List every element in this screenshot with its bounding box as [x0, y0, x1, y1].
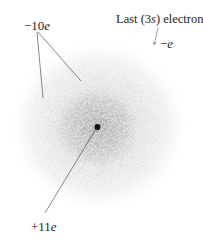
last-electron-pointer [155, 28, 158, 41]
nucleus-charge-label: +11e [31, 220, 57, 233]
inner-electrons-label: −10e [24, 19, 50, 32]
sodium-atom-diagram: −10e Last (3s) electron −e +11e [0, 0, 203, 247]
electron-charge-label: −e [160, 37, 173, 50]
nucleus-dot [95, 124, 101, 130]
last-electron-dot [153, 41, 156, 44]
last-electron-label: Last (3s) electron [116, 13, 203, 26]
